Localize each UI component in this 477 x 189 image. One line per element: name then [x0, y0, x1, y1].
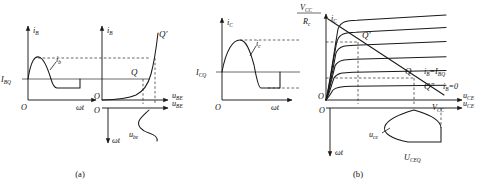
uce-signal-label: uce — [369, 130, 378, 140]
ibq-label: IBQ — [0, 75, 11, 85]
point-q-label-a: Q — [131, 67, 138, 77]
load-line-y-intercept-label: VCC Rc — [297, 3, 321, 27]
wt-down-label-a: ωt — [112, 136, 121, 145]
panel-a-input-voltage-waveform: uBE O ωt ube — [94, 99, 183, 145]
panel-b-collector-current-waveform: iC ωt O ICQ ic — [195, 18, 300, 112]
figure-container: iB ωt O IBQ ib iB uBE O Q Q′ — [0, 0, 477, 189]
panel-a-base-current-waveform: iB ωt O IBQ ib — [0, 26, 150, 112]
curve-label-ib-eq-ibq: iB=IBQ — [424, 67, 445, 77]
point-q-prime-label-b: Q′ — [362, 30, 371, 40]
ube-signal-label: ube — [129, 130, 139, 140]
icq-label: ICQ — [195, 68, 206, 78]
ib-waveform — [28, 57, 80, 88]
ibu-origin-label: O — [94, 92, 100, 101]
output-curve-3 — [326, 57, 446, 100]
ic-x-axis-label: ωt — [271, 103, 280, 112]
ib-y-axis-label: iB — [33, 26, 39, 36]
icu-origin-label: O — [318, 92, 324, 101]
svg-text:Rc: Rc — [302, 17, 311, 27]
point-q-dprime-label-b: Q″ — [424, 81, 434, 91]
caption-b: (b) — [353, 169, 363, 179]
uce-waveform — [384, 110, 441, 142]
panel-a-input-characteristic: iB uBE O Q Q′ — [94, 26, 183, 104]
svg-text:VCC: VCC — [300, 3, 313, 13]
point-q-label-b: Q — [405, 66, 412, 76]
curve-label-ib-eq-zero: iB=0 — [443, 82, 458, 92]
ic-waveform — [222, 40, 280, 88]
ic-origin-label: O — [215, 103, 221, 112]
panel-b-output-voltage-waveform: uCE O ωt uce UCEQ — [319, 99, 475, 163]
point-q-prime-label-a: Q′ — [159, 29, 168, 39]
ib-signal-label: ib — [56, 55, 61, 65]
wt-down-label-b: ωt — [335, 148, 344, 157]
ube-waveform — [139, 110, 158, 141]
ib-x-axis-label: ωt — [76, 103, 85, 112]
ibu-y-axis-label: iB — [107, 26, 113, 36]
uce2-origin-label: O — [319, 106, 325, 115]
ic-y-axis-label: iC — [227, 18, 233, 28]
icu-y-axis-label: iC — [331, 14, 337, 24]
input-characteristic-curve — [102, 33, 158, 100]
caption-a: (a) — [75, 169, 85, 179]
uceq-label: UCEQ — [404, 153, 421, 163]
panel-b-output-characteristics: VCC Rc iC uCE O VCC Q′ Q Q″ iB=IBQ iB=0 — [297, 3, 475, 113]
ic-signal-label: ic — [256, 39, 261, 49]
ube2-origin-label: O — [94, 106, 100, 115]
circuit-characteristics-diagram: iB ωt O IBQ ib iB uBE O Q Q′ — [0, 0, 477, 189]
ib-origin-label: O — [21, 103, 27, 112]
